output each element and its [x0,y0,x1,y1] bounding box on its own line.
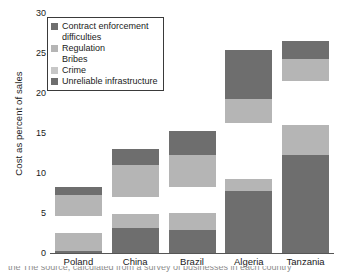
legend-item-contract-enforcement[interactable]: Contract enforcement [51,21,158,32]
legend-item-regulation[interactable]: Regulation [51,43,158,54]
bar-brazil [169,13,216,253]
bar-tanzania [282,13,329,253]
chart-legend: Contract enforcementdifficultiesRegulati… [47,17,164,91]
y-axis-tick-15: 15 [24,129,46,138]
segment-unreliable-infrastructure-brazil [169,230,216,253]
bar-algeria [225,13,272,253]
y-axis-tick-10: 10 [24,169,46,178]
y-axis-tick-25: 25 [24,49,46,58]
segment-contract-enforcement-difficulties-brazil [169,131,216,155]
segment-bribes-china [112,197,159,214]
segment-unreliable-infrastructure-tanzania [282,155,329,253]
y-axis-title: Cost as percent of sales [13,44,24,204]
legend-item-label: Crime [62,65,86,76]
segment-unreliable-infrastructure-china [112,228,159,253]
segment-unreliable-infrastructure-algeria [225,191,272,253]
legend-item-crime[interactable]: Crime [51,65,158,76]
segment-crime-tanzania [282,125,329,155]
legend-swatch-icon [51,45,58,52]
legend-item-label: Regulation [62,43,105,54]
legend-item-label: Unreliable infrastructure [62,76,158,87]
y-axis-tick-20: 20 [24,89,46,98]
y-axis-tick-5: 5 [24,209,46,218]
figure-caption-text: the The source, calculated from a survey… [8,266,291,272]
x-axis-line [50,253,334,254]
segment-contract-enforcement-difficulties-tanzania [282,41,329,59]
legend-swatch-icon [51,78,58,85]
segment-regulation-poland [55,195,102,217]
segment-bribes-algeria [225,123,272,178]
segment-bribes-poland [55,216,102,233]
segment-bribes-brazil [169,187,216,213]
segment-crime-china [112,214,159,228]
figure-caption-clipped: the The source, calculated from a survey… [0,266,338,272]
segment-contract-enforcement-difficulties-poland [55,187,102,195]
stacked-bar-chart: Cost as percent of sales 302520151050 Po… [0,0,338,272]
legend-item-label-continued: Bribes [51,54,88,65]
segment-regulation-algeria [225,99,272,124]
legend-item-unreliable-infrastructure[interactable]: Unreliable infrastructure [51,76,158,87]
segment-crime-brazil [169,213,216,230]
legend-swatch-icon [51,23,58,30]
segment-bribes-tanzania [282,81,329,125]
segment-crime-poland [55,233,102,251]
segment-regulation-brazil [169,155,216,186]
segment-contract-enforcement-difficulties-algeria [225,50,272,99]
y-axis-tick-30: 30 [24,9,46,18]
legend-item-difficulties[interactable]: difficulties [51,32,158,43]
segment-contract-enforcement-difficulties-china [112,149,159,165]
legend-item-label: Contract enforcement [62,21,149,32]
segment-regulation-china [112,165,159,197]
segment-unreliable-infrastructure-poland [55,251,102,253]
legend-item-bribes[interactable]: Bribes [51,54,158,65]
segment-regulation-tanzania [282,59,329,81]
segment-crime-algeria [225,179,272,191]
y-axis-tick-0: 0 [24,249,46,258]
legend-swatch-icon [51,67,58,74]
legend-item-label-continued: difficulties [51,32,101,43]
